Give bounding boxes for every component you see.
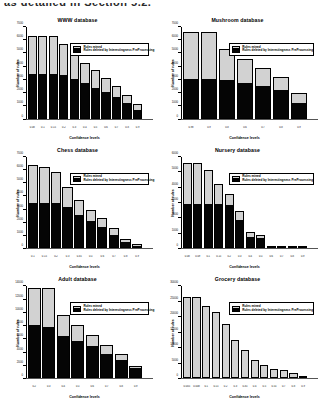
chart-panel-grocery-database: Grocery database050001000015000200002500… bbox=[155, 273, 320, 403]
bar-segment-mined bbox=[102, 79, 109, 92]
x-axis-tick-label: 0.55 bbox=[269, 385, 279, 388]
bar-group bbox=[290, 27, 308, 119]
stacked-bar bbox=[277, 246, 286, 248]
stacked-bar bbox=[133, 104, 142, 119]
stacked-bar bbox=[225, 194, 234, 248]
bar-segment-mined bbox=[242, 351, 248, 377]
stacked-bar bbox=[120, 239, 130, 249]
x-axis-tick-label: 0.6 bbox=[85, 385, 100, 388]
y-axis-tick bbox=[178, 79, 181, 80]
bar-segment-deleted bbox=[81, 83, 88, 118]
x-axis-label: Confidence levels bbox=[26, 136, 143, 140]
bar-group bbox=[236, 27, 254, 119]
y-axis-tick bbox=[178, 233, 181, 234]
stacked-bar bbox=[260, 365, 268, 378]
bar-group bbox=[211, 286, 221, 378]
bar-segment-mined bbox=[29, 289, 40, 324]
bar-group bbox=[192, 286, 202, 378]
bar-segment-deleted bbox=[92, 88, 99, 118]
x-axis-tick-label: 0.6 bbox=[266, 255, 277, 258]
bar-segment-mined bbox=[75, 201, 83, 215]
bar-segment-mined bbox=[194, 164, 201, 204]
bar-segment-mined bbox=[274, 78, 289, 90]
chart-legend: Rules minedRules deleted by Interestingn… bbox=[229, 302, 314, 315]
stacked-bar bbox=[115, 354, 128, 378]
x-axis-tick-label: 0.7 bbox=[108, 255, 120, 258]
bar-group bbox=[193, 157, 204, 249]
bar-segment-mined bbox=[29, 166, 37, 204]
bar-segment-mined bbox=[271, 370, 277, 377]
bar-segment-deleted bbox=[87, 221, 95, 247]
y-axis-tick-label: 25000 bbox=[170, 296, 178, 300]
bar-group bbox=[277, 157, 288, 249]
stacked-bar bbox=[28, 36, 37, 118]
bar-group bbox=[100, 286, 115, 378]
stacked-bar bbox=[288, 246, 297, 248]
x-axis-tick-label: 0.9 bbox=[129, 385, 144, 388]
legend-label-deleted: Rules deleted by Interestingness PreProc… bbox=[83, 179, 154, 183]
stacked-bar bbox=[183, 297, 191, 378]
y-axis-tick bbox=[178, 378, 181, 379]
x-axis-tick-label: 0.4 bbox=[245, 255, 256, 258]
x-axis-tick-label: 0.9 bbox=[200, 126, 218, 129]
bar-segment-mined bbox=[52, 173, 60, 203]
y-axis-tick-label: 6000 bbox=[17, 164, 23, 168]
bar-segment-deleted bbox=[256, 86, 271, 117]
bar-segment-deleted bbox=[110, 235, 118, 247]
x-axis-tick-label: 0.8 bbox=[114, 385, 129, 388]
stacked-bar bbox=[267, 246, 276, 248]
y-axis-tick-label: 5000 bbox=[172, 47, 178, 51]
bar-segment-deleted bbox=[52, 203, 60, 247]
x-axis-tick-label: 0.9 bbox=[132, 126, 143, 129]
bar-segment-deleted bbox=[184, 204, 191, 247]
bar-segment-deleted bbox=[58, 336, 69, 377]
chart-legend: Rules minedRules deleted by Interestingn… bbox=[70, 302, 149, 315]
legend-swatch-deleted bbox=[232, 179, 240, 182]
y-axis-tick bbox=[23, 299, 26, 300]
bar-group bbox=[214, 157, 225, 249]
y-axis-tick-label: 2000 bbox=[172, 87, 178, 91]
bar-segment-mined bbox=[87, 211, 95, 222]
bar-segment-deleted bbox=[205, 204, 212, 247]
y-axis-tick-label: 0 bbox=[176, 373, 178, 377]
bar-group bbox=[48, 27, 59, 119]
bar-group bbox=[42, 286, 57, 378]
stacked-bar bbox=[212, 312, 220, 378]
bar-segment-deleted bbox=[274, 90, 289, 117]
y-axis-tick bbox=[178, 105, 181, 106]
bar-group bbox=[298, 157, 309, 249]
bar-segment-deleted bbox=[43, 327, 54, 377]
x-axis-tick-label: 0.8 bbox=[218, 126, 236, 129]
stacked-bar bbox=[51, 172, 61, 248]
x-axis-tick-label: 0.15 bbox=[211, 385, 221, 388]
bar-group bbox=[245, 157, 256, 249]
stacked-bar bbox=[100, 345, 113, 378]
y-axis-tick bbox=[178, 332, 181, 333]
x-axis-tick-label: 0.6 bbox=[97, 255, 109, 258]
legend-label-deleted: Rules deleted by Interestingness PreProc… bbox=[83, 49, 154, 53]
bar-group bbox=[254, 27, 272, 119]
legend-label-deleted: Rules deleted by Interestingness PreProc… bbox=[242, 179, 313, 183]
bar-group bbox=[240, 286, 250, 378]
bar-segment-deleted bbox=[29, 203, 37, 247]
y-axis-tick bbox=[178, 187, 181, 188]
y-axis-tick bbox=[178, 52, 181, 53]
bar-group bbox=[122, 27, 133, 119]
stacked-bar bbox=[70, 55, 79, 119]
chart-title: Mushroom database bbox=[155, 17, 320, 23]
bar-segment-mined bbox=[238, 60, 253, 83]
bar-segment-deleted bbox=[75, 215, 83, 248]
x-axis-tick-labels: 0.080.10.150.20.30.40.50.60.70.80.9 bbox=[27, 126, 143, 129]
bar-group bbox=[200, 27, 218, 119]
stacked-bar bbox=[237, 59, 254, 119]
bar-group bbox=[289, 286, 299, 378]
y-axis-tick-label: 6000 bbox=[172, 151, 178, 155]
x-axis-tick-label: 0.09 bbox=[193, 255, 204, 258]
stacked-bar bbox=[222, 324, 230, 378]
y-axis-tick bbox=[178, 39, 181, 40]
stacked-bar bbox=[38, 36, 47, 118]
x-axis-tick-label: 0.7 bbox=[279, 385, 289, 388]
stacked-bar bbox=[101, 78, 110, 119]
x-axis-tick-label: 0.2 bbox=[27, 385, 42, 388]
stacked-bar bbox=[255, 68, 272, 118]
